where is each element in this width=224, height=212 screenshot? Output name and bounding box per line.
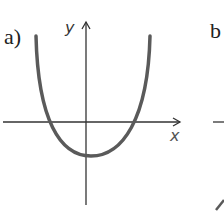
graph-svg xyxy=(0,0,224,212)
y-axis-label: y xyxy=(65,18,74,37)
x-axis-label: x xyxy=(170,126,179,145)
panel-a-label: a) xyxy=(4,24,21,50)
panel-b-label: b xyxy=(210,18,221,44)
parabola-curve xyxy=(36,36,150,156)
panel-b-curve-fragment xyxy=(216,200,224,210)
